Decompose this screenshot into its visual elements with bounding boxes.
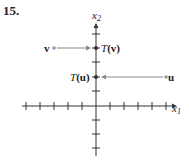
coordinate-plane: [0, 0, 189, 167]
arrow-u-to-Tu: [94, 75, 168, 80]
point-v-label: v: [44, 43, 50, 54]
point-Tu-label: T(u): [70, 72, 90, 83]
point-Tv-label: T(v): [101, 43, 120, 54]
arrow-v-to-Tv: [52, 46, 98, 51]
point-u-label: u: [168, 72, 174, 83]
x2-axis-label: x2: [92, 10, 101, 23]
x1-axis-label: x1: [172, 103, 181, 116]
